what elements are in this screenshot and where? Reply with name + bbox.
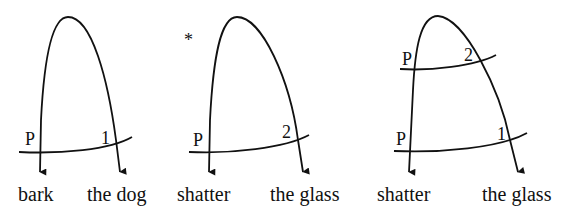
stratum-label-right: 1	[101, 128, 110, 148]
stratum-1-label-right: 2	[464, 45, 473, 65]
relational-network-diagrams: P 1 bark the dog * P 2 shatter the glass…	[0, 0, 584, 216]
stratum-label-left: P	[25, 129, 35, 149]
arc-left-leg	[409, 16, 438, 172]
arc-right-leg	[438, 16, 518, 172]
diagram-2: * P 2 shatter the glass	[177, 17, 340, 206]
stratum-2-label-right: 1	[497, 124, 506, 144]
arc-right-leg	[237, 17, 303, 172]
diagram-3: P 2 P 1 shatter the glass	[377, 16, 552, 206]
word-left: bark	[18, 183, 54, 205]
stratum-1-label-left: P	[402, 49, 412, 69]
word-right: the glass	[482, 183, 552, 206]
word-left: shatter	[377, 183, 431, 205]
ungrammatical-asterisk: *	[184, 30, 193, 50]
diagram-1: P 1 bark the dog	[18, 17, 146, 206]
stratum-label-right: 2	[282, 122, 291, 142]
word-right: the glass	[270, 183, 340, 206]
stratum-label-left: P	[193, 130, 203, 150]
word-right: the dog	[87, 183, 146, 206]
arc-left-leg	[209, 17, 237, 172]
stratum-line-2	[394, 133, 527, 151]
stratum-line-1	[189, 135, 309, 152]
word-left: shatter	[177, 183, 231, 205]
arc-left-leg	[40, 17, 68, 172]
stratum-2-label-left: P	[396, 129, 406, 149]
